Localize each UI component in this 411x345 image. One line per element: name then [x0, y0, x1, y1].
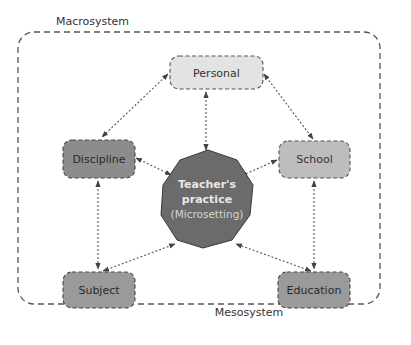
node-education: Education — [278, 272, 350, 308]
node-personal-label: Personal — [193, 67, 240, 80]
edge-subject-center — [103, 244, 175, 271]
node-subject-label: Subject — [78, 284, 120, 297]
node-school-label: School — [296, 153, 333, 166]
edge-school-center — [241, 160, 277, 176]
edge-education-center — [236, 244, 311, 271]
edge-discipline-center — [136, 158, 171, 175]
mesosystem-label: Mesosystem — [215, 306, 284, 319]
center-line1: Teacher's — [178, 178, 237, 191]
node-discipline-label: Discipline — [72, 153, 125, 166]
node-personal: Personal — [170, 56, 263, 89]
ecological-systems-diagram: Macrosystem Personal Discipline School S… — [0, 0, 411, 345]
node-education-label: Education — [287, 284, 342, 297]
edge-personal-school — [264, 74, 313, 139]
center-line3: (Microsetting) — [171, 208, 244, 220]
edge-personal-discipline — [102, 74, 168, 137]
center-line2: practice — [182, 193, 232, 206]
node-school: School — [279, 141, 350, 178]
node-subject: Subject — [63, 272, 135, 308]
node-discipline: Discipline — [63, 140, 135, 178]
macrosystem-label: Macrosystem — [56, 15, 129, 28]
node-center-teachers-practice: Teacher's practice (Microsetting) — [161, 150, 253, 248]
